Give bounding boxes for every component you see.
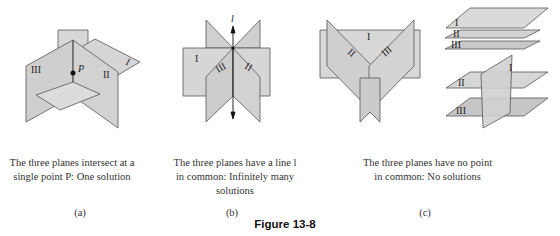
plane-label-ii: II — [458, 77, 465, 88]
plane-label-i: I — [195, 53, 198, 64]
plane-label-i: I — [509, 62, 512, 73]
figure-title: Figure 13-8 — [240, 218, 330, 230]
line-l-label: l — [231, 13, 234, 24]
plane-label-i: I — [367, 31, 370, 42]
plane-label-iii: III — [451, 39, 461, 50]
plane-label-iii: III — [456, 105, 466, 116]
plane-label-i: I — [455, 17, 458, 28]
panel-b-planes — [183, 20, 270, 122]
caption-b: The three planes have a line l in common… — [165, 156, 305, 198]
caption-a: The three planes intersect at a single p… — [2, 156, 142, 184]
panel-label-a: (a) — [60, 207, 100, 218]
panel-label-c: (c) — [405, 207, 445, 218]
panel-c-two-parallel-one-cutting — [446, 55, 548, 128]
point-p-label: P — [77, 63, 84, 74]
panel-a-diagram: P III II I l I III II I II III I II III — [0, 0, 560, 236]
panel-a-planes — [26, 30, 140, 128]
plane-label-ii: II — [453, 28, 460, 39]
point-p — [71, 71, 76, 76]
panel-label-b: (b) — [212, 207, 252, 218]
plane-label-iii: III — [31, 64, 41, 75]
plane-label-ii: II — [103, 69, 110, 80]
caption-c: The three planes have no point in common… — [355, 156, 500, 184]
